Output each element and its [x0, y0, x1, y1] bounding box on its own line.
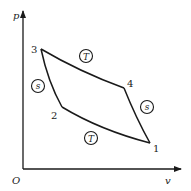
- marker-T-upper-label: T: [83, 52, 90, 62]
- point-label-3: 3: [31, 44, 37, 55]
- process-1-2-curve: [62, 107, 150, 143]
- point-labels: 1 2 3 4: [31, 44, 159, 154]
- process-4-1-curve: [124, 88, 150, 143]
- point-label-2: 2: [51, 110, 57, 121]
- x-axis-label: v: [165, 175, 171, 186]
- marker-T-lower-label: T: [88, 134, 95, 144]
- axes: p v O: [12, 10, 181, 186]
- origin-label: O: [12, 175, 20, 186]
- y-axis-label: p: [13, 10, 20, 21]
- point-label-1: 1: [153, 143, 159, 154]
- marker-s-left: s: [32, 80, 45, 93]
- marker-T-upper: T: [80, 50, 93, 63]
- marker-s-right-label: s: [145, 102, 150, 112]
- marker-s-left-label: s: [36, 81, 41, 91]
- pv-diagram: p v O 1 2 3 4 T T s: [0, 0, 191, 191]
- marker-T-lower: T: [85, 132, 98, 145]
- marker-s-right: s: [141, 101, 154, 114]
- cycle: [41, 49, 150, 143]
- point-label-4: 4: [127, 78, 133, 89]
- process-2-3-curve: [41, 49, 62, 107]
- process-markers: T T s s: [32, 50, 154, 145]
